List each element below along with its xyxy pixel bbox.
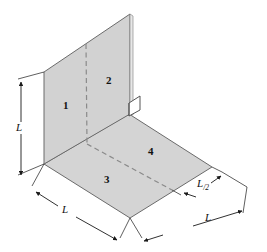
dimension-depth-full-extension-near <box>130 218 142 238</box>
dimension-height-extension-bottom <box>18 164 44 175</box>
isometric-plate-diagram <box>0 0 267 252</box>
surface-label-4: 4 <box>148 146 154 157</box>
dimension-depth-full-extension-far <box>222 172 247 187</box>
dimension-width-extension-left <box>32 164 44 186</box>
dimension-depth-full-extension-tail <box>243 187 247 213</box>
dimension-label-width-front: L <box>62 204 68 215</box>
dimension-label-depth-half: L/2 <box>197 178 209 192</box>
dimension-depth-half-line-near <box>184 193 196 197</box>
vertical-plate-thickness <box>130 14 133 115</box>
dimension-label-height: L <box>16 122 22 133</box>
surface-label-2: 2 <box>106 75 112 86</box>
dimension-label-depth-half-sub: /2 <box>203 183 209 192</box>
dimension-depth-full-line-near <box>144 235 163 241</box>
dimension-depth-half-line-far <box>211 176 221 183</box>
dimension-depth-half-extension-near <box>172 190 181 195</box>
dimension-width-line-left <box>36 192 58 206</box>
surface-label-3: 3 <box>104 174 110 185</box>
dimension-depth-full-line-far <box>193 211 242 226</box>
figure-container: 1 2 3 4 L L L/2 L <box>0 0 267 252</box>
dimension-width-extension-right <box>120 218 130 238</box>
dimension-label-depth-full: L <box>205 212 211 223</box>
surface-label-1: 1 <box>63 100 69 111</box>
dimension-height-extension-top <box>18 72 44 79</box>
dimension-depth-half-extension-far <box>212 167 222 172</box>
dimension-width-line-right <box>76 217 117 240</box>
